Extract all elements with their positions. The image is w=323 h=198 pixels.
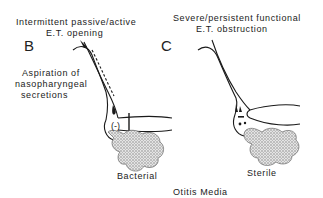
panel-c-fluid-marks <box>235 104 246 125</box>
panel-b-side-label-line1: Aspiration of <box>22 68 80 78</box>
panel-b-eustachian-tube <box>73 42 172 140</box>
panel-b-pressure-mark: (-) <box>111 121 120 131</box>
panel-c-effusion <box>244 128 299 165</box>
panel-b-result-label: Bacterial <box>117 171 157 181</box>
panel-c-title-line1: Severe/persistent functional <box>173 13 301 23</box>
panel-b-effusion <box>108 130 164 171</box>
panel-c-title-line2: E.T. obstruction <box>196 24 268 34</box>
panel-b-letter: B <box>24 38 34 53</box>
panel-c-letter: C <box>161 38 172 53</box>
panel-b-title-line1: Intermittent passive/active <box>16 17 136 27</box>
panel-b-title-line2: E.T. opening <box>46 28 103 38</box>
panel-c-eustachian-tube <box>198 40 300 136</box>
figure-caption: Otitis Media <box>173 187 228 197</box>
panel-c-result-label: Sterile <box>247 168 277 178</box>
panel-b-side-label-line3: secretions <box>21 90 68 100</box>
panel-b-side-label-line2: nasopharyngeal <box>15 79 87 89</box>
